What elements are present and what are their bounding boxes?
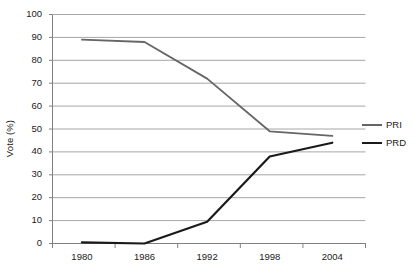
legend-item-pri: PRI <box>362 116 419 134</box>
chart-legend: PRI PRD <box>362 116 419 152</box>
legend-swatch-pri <box>362 124 382 126</box>
x-axis-tick-marks <box>53 244 366 249</box>
legend-label-prd: PRD <box>386 138 406 148</box>
legend-swatch-prd <box>362 142 382 144</box>
series-line-prd <box>82 143 332 244</box>
legend-item-prd: PRD <box>362 134 419 152</box>
series-line-pri <box>82 40 332 136</box>
data-series-lines <box>82 40 332 244</box>
gridlines <box>49 15 366 244</box>
line-chart: Vote (%) 0102030405060708090100 19801986… <box>0 0 419 277</box>
legend-label-pri: PRI <box>386 120 402 130</box>
plot-area <box>0 0 419 277</box>
